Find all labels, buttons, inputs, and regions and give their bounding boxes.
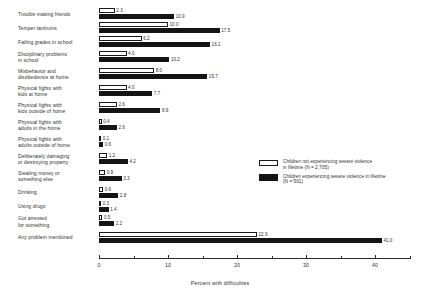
bar-value-label: 8.9 [162, 108, 168, 113]
row-bars: 8.015.7 [82, 68, 440, 82]
bar-light [99, 8, 115, 13]
chart-row: Misbehavior and disobedience at home8.01… [0, 68, 440, 84]
bar-group-dark: 15.7 [99, 74, 218, 79]
row-bars: 22.941.0 [82, 232, 440, 246]
bar-group-light: 4.0 [99, 51, 134, 56]
row-bars: 2.310.9 [82, 8, 440, 22]
bar-dark [99, 207, 109, 212]
category-label: Using drugs [0, 201, 82, 210]
chart-rows: Trouble making friends2.310.9Temper tant… [0, 8, 440, 246]
bar-group-light: 2.6 [99, 102, 125, 107]
bar-group-dark: 2.6 [99, 125, 125, 130]
category-label: Failing grades in school [0, 36, 82, 45]
bar-value-label: 2.6 [118, 102, 124, 107]
bar-light [99, 136, 101, 141]
bar-group-dark: 4.2 [99, 159, 136, 164]
bar-value-label: 22.9 [259, 232, 268, 237]
category-label: Disciplinary problems in school [0, 51, 82, 64]
bar-group-light: 0.5 [99, 215, 110, 220]
legend-swatch-light-icon [259, 160, 278, 167]
x-tick-minor [272, 256, 273, 258]
chart-row: Physical fights with kids at home4.07.7 [0, 85, 440, 101]
x-tick-label: 30 [303, 262, 309, 268]
x-tick-minor [410, 256, 411, 258]
category-label: Physical fights with kids at home [0, 85, 82, 98]
bar-dark [99, 142, 103, 147]
legend-label-dark: Children experiencing severe violence in… [283, 174, 386, 186]
bar-group-light: 1.2 [99, 153, 115, 158]
chart-row: Physical fights with adults in the home0… [0, 119, 440, 135]
legend-label-light: Children not experiencing severe violenc… [283, 159, 372, 171]
bar-value-label: 7.7 [154, 91, 160, 96]
x-tick-major [306, 255, 307, 258]
bar-value-label: 6.2 [143, 36, 149, 41]
chart-legend: Children not experiencing severe violenc… [259, 159, 435, 188]
bar-light [99, 22, 168, 27]
row-bars: 0.10.6 [82, 136, 440, 150]
bar-light [99, 51, 127, 56]
chart-row: Drinking0.62.8 [0, 187, 440, 200]
bar-value-label: 2.2 [116, 221, 122, 226]
bar-value-label: 2.6 [118, 125, 124, 130]
category-label: Misbehavior and disobedience at home [0, 68, 82, 81]
bar-light [99, 153, 107, 158]
bar-value-label: 1.2 [109, 153, 115, 158]
row-bars: 0.62.8 [82, 187, 440, 201]
row-bars: 6.216.1 [82, 36, 440, 50]
bar-group-light: 0.1 [99, 136, 109, 141]
bar-value-label: 16.1 [212, 42, 221, 47]
x-tick-label: 40 [372, 262, 378, 268]
bar-value-label: 0.4 [103, 119, 109, 124]
x-tick-major [168, 255, 169, 258]
bar-dark [99, 42, 210, 47]
chart-row: Using drugs0.31.4 [0, 201, 440, 214]
bar-group-dark: 2.8 [99, 193, 126, 198]
bar-dark [99, 108, 160, 113]
category-label: Temper tantrums [0, 22, 82, 31]
x-axis: Percent with difficulties 010203040 [0, 258, 440, 298]
chart-row: Trouble making friends2.310.9 [0, 8, 440, 21]
bar-group-light: 0.9 [99, 170, 113, 175]
x-tick-minor [203, 256, 204, 258]
x-tick-major [99, 255, 100, 258]
category-label: Stealing money or something else [0, 170, 82, 183]
bar-light [99, 36, 142, 41]
bar-light [99, 170, 105, 175]
chart-row: Disciplinary problems in school4.010.2 [0, 51, 440, 67]
bar-group-light: 0.3 [99, 201, 109, 206]
x-tick-label: 0 [98, 262, 101, 268]
bar-group-light: 22.9 [99, 232, 267, 237]
bar-group-dark: 1.4 [99, 207, 117, 212]
bar-value-label: 1.4 [110, 207, 116, 212]
bar-dark [99, 221, 114, 226]
bar-light [99, 232, 257, 237]
bar-light [99, 85, 127, 90]
category-label: Any problem mentioned [0, 232, 82, 241]
bar-value-label: 3.3 [123, 176, 129, 181]
bar-value-label: 4.2 [129, 159, 135, 164]
bar-value-label: 41.0 [383, 238, 392, 243]
bar-group-dark: 10.9 [99, 14, 185, 19]
legend-entry-light: Children not experiencing severe violenc… [259, 159, 435, 171]
chart-row: Any problem mentioned22.941.0 [0, 232, 440, 245]
bar-value-label: 4.0 [128, 51, 134, 56]
bar-group-dark: 41.0 [99, 238, 392, 243]
bar-group-dark: 0.6 [99, 142, 111, 147]
row-bars: 0.52.2 [82, 215, 440, 229]
category-label: Got arrested for something [0, 215, 82, 228]
x-tick-major [375, 255, 376, 258]
bar-group-dark: 7.7 [99, 91, 160, 96]
category-label: Physical fights with adults in the home [0, 119, 82, 132]
bar-group-light: 6.2 [99, 36, 150, 41]
bar-dark [99, 238, 382, 243]
chart-row: Got arrested for something0.52.2 [0, 215, 440, 231]
chart-row: Physical fights with kids outside of hom… [0, 102, 440, 118]
bar-value-label: 17.5 [221, 28, 230, 33]
bar-value-label: 2.3 [116, 8, 122, 13]
bar-group-light: 0.6 [99, 187, 111, 192]
chart-row: Temper tantrums10.017.5 [0, 22, 440, 35]
bar-light [99, 187, 103, 192]
x-tick-minor [134, 256, 135, 258]
category-label: Trouble making friends [0, 8, 82, 17]
bar-dark [99, 28, 220, 33]
